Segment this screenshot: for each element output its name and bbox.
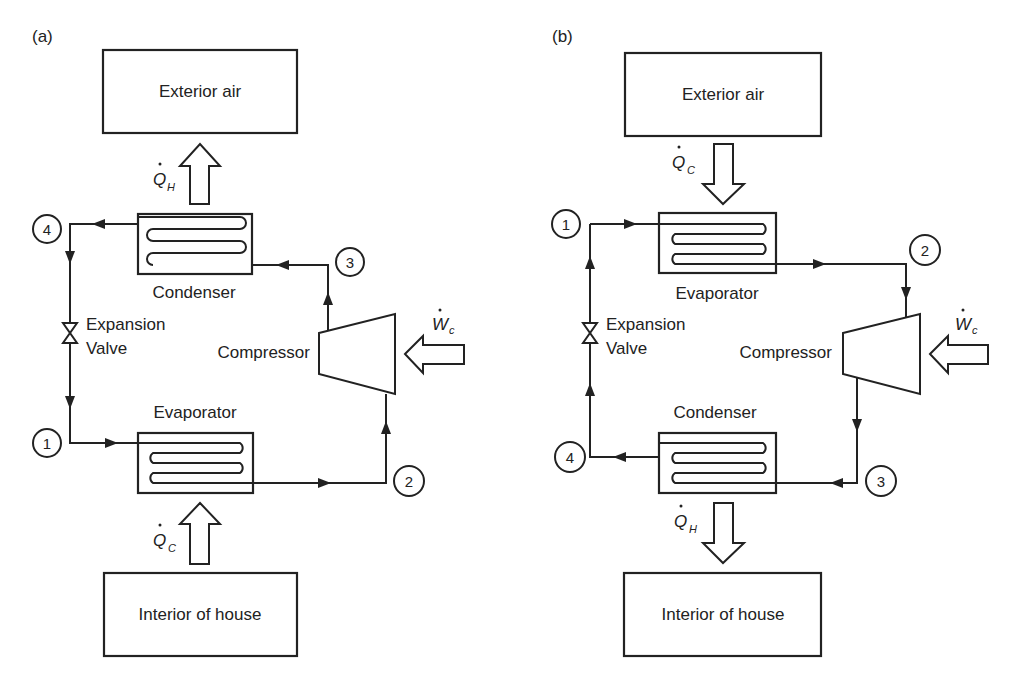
- flow-arrow-icon: [901, 287, 911, 300]
- heat-bottom-subscript: C: [168, 542, 176, 554]
- heat-absorbed-arrow-icon: [703, 144, 744, 204]
- work-symbol: W: [432, 315, 450, 334]
- svg-text:1: 1: [43, 435, 51, 452]
- compressor-icon: [843, 314, 920, 394]
- heat-bottom-symbol: Q: [153, 531, 166, 550]
- condenser-label: Condenser: [673, 403, 757, 422]
- panel-b: (b) Exterior air Q C Evaporator 2 Expans…: [552, 27, 988, 656]
- heat-top-symbol: Q: [672, 153, 685, 172]
- exterior-air-label: Exterior air: [159, 82, 242, 101]
- panel-b-label: (b): [552, 27, 573, 46]
- discharge-pipe: [252, 265, 328, 330]
- evaporator-label: Evaporator: [675, 284, 758, 303]
- svg-text:4: 4: [566, 449, 574, 466]
- suction-pipe: [253, 394, 386, 483]
- dot-accent: [680, 505, 683, 508]
- svg-text:1: 1: [562, 216, 570, 233]
- flow-arrow-icon: [318, 478, 331, 488]
- svg-text:2: 2: [921, 242, 929, 259]
- flow-arrow-icon: [613, 452, 626, 462]
- heat-rejected-arrow-icon: [180, 144, 220, 204]
- flow-arrow-icon: [813, 259, 826, 269]
- dot-accent: [159, 163, 162, 166]
- compressor-icon: [319, 314, 395, 394]
- flow-arrow-icon: [852, 419, 862, 432]
- valve-label-line1: Expansion: [606, 315, 685, 334]
- panel-a-label: (a): [32, 27, 53, 46]
- heat-top-subscript: H: [167, 181, 175, 193]
- svg-text:3: 3: [346, 254, 354, 271]
- svg-text:4: 4: [43, 221, 51, 238]
- work-symbol: W: [955, 315, 973, 334]
- flow-arrow-icon: [624, 219, 637, 229]
- condenser-box: [138, 214, 252, 274]
- panel-a: (a) Exterior air Q H Condenser Expansion…: [32, 27, 464, 656]
- flow-arrow-icon: [323, 292, 333, 305]
- interior-house-label: Interior of house: [662, 605, 785, 624]
- heat-bottom-subscript: H: [689, 523, 697, 535]
- flow-arrow-icon: [830, 478, 843, 488]
- heat-pump-diagram: (a) Exterior air Q H Condenser Expansion…: [0, 0, 1015, 685]
- expansion-valve-icon: [63, 323, 77, 343]
- dot-accent: [678, 146, 681, 149]
- flow-arrow-icon: [585, 383, 595, 396]
- flow-arrow-icon: [65, 396, 75, 409]
- discharge-pipe: [776, 377, 857, 483]
- heat-absorbed-arrow-icon: [180, 503, 220, 564]
- flow-arrow-icon: [276, 260, 289, 270]
- heat-bottom-symbol: Q: [674, 512, 687, 531]
- interior-house-label: Interior of house: [139, 605, 262, 624]
- flow-arrow-icon: [381, 421, 391, 434]
- heat-top-subscript: C: [687, 164, 695, 176]
- evaporator-label: Evaporator: [153, 403, 236, 422]
- heat-top-symbol: Q: [153, 170, 166, 189]
- expansion-valve-icon: [583, 323, 597, 343]
- heat-rejected-arrow-icon: [703, 503, 744, 563]
- suction-pipe: [776, 264, 906, 318]
- flow-arrow-icon: [105, 438, 118, 448]
- condenser-label: Condenser: [152, 283, 236, 302]
- compressor-label: Compressor: [739, 343, 832, 362]
- valve-label-line2: Valve: [86, 339, 127, 358]
- compressor-label: Compressor: [217, 343, 310, 362]
- flow-arrow-icon: [65, 251, 75, 264]
- valve-label-line1: Expansion: [86, 315, 165, 334]
- work-subscript: c: [972, 324, 978, 336]
- valve-label-line2: Valve: [606, 339, 647, 358]
- dot-accent: [159, 524, 162, 527]
- work-subscript: c: [449, 324, 455, 336]
- flow-arrow-icon: [92, 219, 105, 229]
- svg-text:2: 2: [405, 473, 413, 490]
- work-input-arrow-icon: [405, 336, 464, 373]
- svg-text:3: 3: [877, 473, 885, 490]
- dot-accent: [439, 309, 442, 312]
- exterior-air-label: Exterior air: [682, 85, 765, 104]
- work-input-arrow-icon: [930, 336, 988, 373]
- flow-arrow-icon: [585, 256, 595, 269]
- dot-accent: [962, 309, 965, 312]
